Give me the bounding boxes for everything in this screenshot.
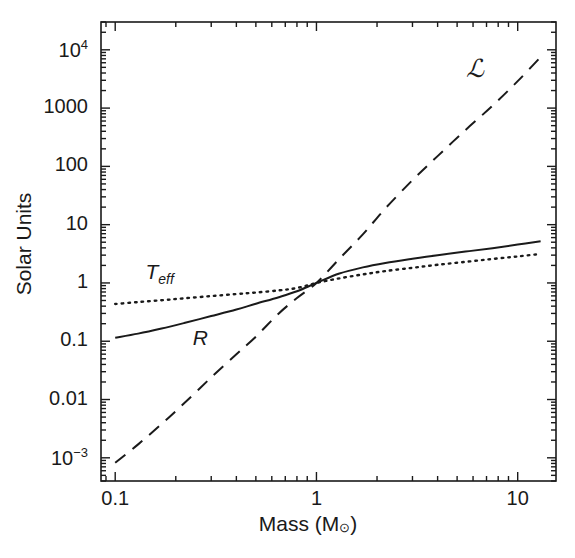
y-tick-base: 0.01 xyxy=(49,387,88,409)
x-tick-label: 1 xyxy=(281,487,351,510)
axes-frame xyxy=(101,22,556,481)
y-tick-label: 1000 xyxy=(0,95,88,118)
y-tick-base: 1 xyxy=(77,270,88,292)
radius-curve-label: R xyxy=(193,326,208,350)
temperature-curve-label: Teff xyxy=(146,260,174,287)
x-tick-label: 0.1 xyxy=(80,487,150,510)
y-tick-label: 104 xyxy=(0,37,88,62)
y-tick-label: 10−3 xyxy=(0,445,88,470)
x-tick-label: 10 xyxy=(483,487,553,510)
x-axis-title-close: ) xyxy=(350,512,357,535)
y-tick-base: 0.1 xyxy=(60,328,88,350)
temperature-subscript: eff xyxy=(158,271,174,287)
temperature-symbol: T xyxy=(146,260,159,283)
figure-root: 10410001001010.10.0110−3 0.1110 Solar Un… xyxy=(0,0,575,558)
y-tick-base: 10 xyxy=(51,446,73,468)
solar-symbol-icon: ⊙ xyxy=(339,520,350,535)
luminosity-curve-label: ℒ xyxy=(466,54,484,83)
y-tick-label: 0.01 xyxy=(0,387,88,410)
series-line-r xyxy=(115,241,540,337)
x-axis-title: Mass (M⊙) xyxy=(218,512,398,536)
y-axis-ticks xyxy=(101,22,556,481)
y-tick-base: 10 xyxy=(59,38,81,60)
y-tick-base: 100 xyxy=(55,153,88,175)
y-tick-base: 10 xyxy=(66,212,88,234)
y-tick-exponent: −3 xyxy=(73,445,88,460)
x-axis-ticks xyxy=(106,22,518,481)
x-axis-title-main: Mass (M xyxy=(259,512,340,535)
data-series-group xyxy=(115,57,540,463)
y-axis-title: Solar Units xyxy=(12,164,36,324)
y-tick-label: 0.1 xyxy=(0,328,88,351)
y-tick-base: 1000 xyxy=(44,95,89,117)
y-tick-exponent: 4 xyxy=(81,37,88,52)
